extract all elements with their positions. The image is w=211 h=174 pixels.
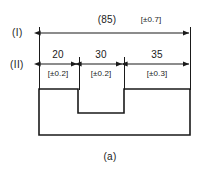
engineering-drawing: (I) (II) (85) [±0.7] 20 [±0.2] 30 [±0.2]… xyxy=(0,0,211,174)
drawing-canvas xyxy=(0,0,211,174)
dimension-tolerance-seg-30: [±0.2] xyxy=(91,70,112,78)
dimension-value-seg-35: 35 xyxy=(151,50,163,60)
part-outline-notched-block xyxy=(39,89,190,135)
dimension-tolerance-seg-20: [±0.2] xyxy=(48,70,69,78)
figure-caption: (a) xyxy=(103,152,116,162)
row-label-2: (II) xyxy=(10,60,24,70)
dimension-value-overall-85: (85) xyxy=(98,15,117,25)
dimension-value-seg-30: 30 xyxy=(95,50,107,60)
dimension-tolerance-seg-35: [±0.3] xyxy=(147,70,168,78)
dimension-tolerance-overall-85: [±0.7] xyxy=(141,16,162,24)
row-label-1: (I) xyxy=(12,28,23,38)
dimension-value-seg-20: 20 xyxy=(52,50,64,60)
